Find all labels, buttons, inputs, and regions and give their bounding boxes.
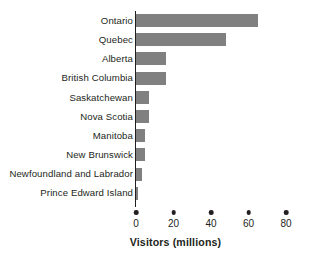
- category-label: British Columbia: [3, 73, 133, 83]
- bar-row: British Columbia: [0, 69, 311, 88]
- bar: [136, 14, 258, 27]
- bar-row: Nova Scotia: [0, 107, 311, 126]
- bar-row: Ontario: [0, 11, 311, 30]
- x-tick-mark: [209, 210, 214, 215]
- x-tick-label: 80: [280, 219, 291, 229]
- bar-row: Newfoundland and Labrador: [0, 165, 311, 184]
- bar: [136, 110, 149, 123]
- category-label: Quebec: [3, 35, 133, 45]
- category-label: Prince Edward Island: [3, 188, 133, 198]
- bar-track: [136, 49, 311, 68]
- bar-track: [136, 88, 311, 107]
- bar-row: New Brunswick: [0, 145, 311, 164]
- category-label: Manitoba: [3, 131, 133, 141]
- category-label: Saskatchewan: [3, 93, 133, 103]
- bar-track: [136, 107, 311, 126]
- y-axis-line: [135, 11, 136, 207]
- category-label: Nova Scotia: [3, 112, 133, 122]
- bar-track: [136, 145, 311, 164]
- bar-track: [136, 11, 311, 30]
- x-axis-ticks: [0, 209, 311, 219]
- x-axis-tick-labels: 020406080: [0, 219, 311, 233]
- bar: [136, 91, 149, 104]
- bar-chart: OntarioQuebecAlbertaBritish ColumbiaSask…: [0, 0, 311, 270]
- x-tick-mark: [284, 210, 289, 215]
- bar-row: Manitoba: [0, 126, 311, 145]
- bar-track: [136, 30, 311, 49]
- x-tick-label: 40: [205, 219, 216, 229]
- bar: [136, 168, 142, 181]
- bar-row: Quebec: [0, 30, 311, 49]
- bar-track: [136, 184, 311, 203]
- bar-track: [136, 126, 311, 145]
- bar-row: Alberta: [0, 49, 311, 68]
- bar-track: [136, 69, 311, 88]
- x-tick-mark: [134, 210, 139, 215]
- bar-rows: OntarioQuebecAlbertaBritish ColumbiaSask…: [0, 11, 311, 203]
- bar: [136, 129, 145, 142]
- bar: [136, 148, 145, 161]
- chart-page: OntarioQuebecAlbertaBritish ColumbiaSask…: [0, 0, 311, 270]
- bar-track: [136, 165, 311, 184]
- x-tick-label: 60: [243, 219, 254, 229]
- bar: [136, 33, 226, 46]
- category-label: Alberta: [3, 54, 133, 64]
- x-tick-label: 0: [133, 219, 139, 229]
- x-tick-label: 20: [168, 219, 179, 229]
- bar-row: Prince Edward Island: [0, 184, 311, 203]
- x-tick-mark: [171, 210, 176, 215]
- category-label: Ontario: [3, 16, 133, 26]
- x-axis-title: Visitors (millions): [0, 236, 311, 248]
- x-tick-mark: [246, 210, 251, 215]
- bar-row: Saskatchewan: [0, 88, 311, 107]
- category-label: Newfoundland and Labrador: [3, 169, 133, 179]
- bar: [136, 72, 166, 85]
- bar: [136, 52, 166, 65]
- category-label: New Brunswick: [3, 150, 133, 160]
